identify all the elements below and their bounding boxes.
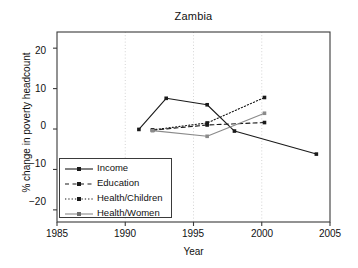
series-marker (164, 97, 168, 101)
series-marker (263, 111, 267, 115)
legend-swatch-education (64, 176, 94, 188)
legend-item-income: Income (60, 160, 171, 174)
legend-label-health-children: Health/Children (97, 192, 162, 203)
legend-swatch-income (64, 161, 94, 173)
legend-label-education: Education (97, 177, 139, 188)
x-tick-marks (57, 222, 330, 226)
series-line (139, 98, 316, 154)
series-marker (137, 128, 141, 132)
series-marker (315, 152, 319, 156)
plot-area (0, 0, 358, 268)
series-marker (263, 121, 267, 125)
series-marker (205, 135, 209, 139)
series-marker (205, 103, 209, 107)
legend-label-income: Income (97, 162, 128, 173)
legend-swatch-health-children (64, 191, 94, 203)
series-marker (151, 129, 155, 133)
legend-swatch-health-women (64, 206, 94, 218)
legend-item-education: Education (60, 175, 171, 189)
legend-item-health-women: Health/Women (60, 205, 171, 219)
series-marker (205, 121, 209, 125)
series-marker (233, 129, 237, 133)
y-tick-marks (53, 48, 57, 210)
chart-figure: Zambia % change in poverty headcount Yea… (0, 0, 358, 268)
series-income (137, 97, 318, 156)
legend: Income Education Health/Children (59, 158, 172, 218)
series-marker (263, 96, 267, 100)
legend-item-health-children: Health/Children (60, 190, 171, 204)
legend-label-health-women: Health/Women (97, 207, 160, 218)
data-series-layer (137, 96, 318, 156)
